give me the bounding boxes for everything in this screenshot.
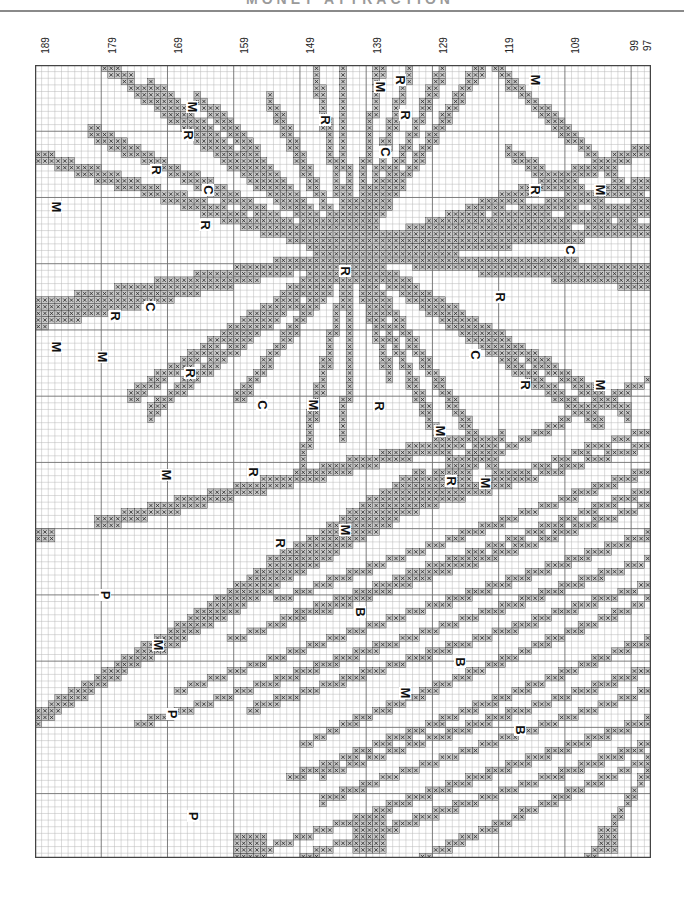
column-number: 109 <box>570 35 581 57</box>
key-label-r: R <box>318 115 333 125</box>
stitch-rays <box>35 65 651 858</box>
key-label-m: M <box>49 342 64 353</box>
key-label-m: M <box>433 426 448 437</box>
column-number: 119 <box>504 35 515 57</box>
key-label-c: C <box>255 400 270 410</box>
key-label-c: C <box>378 147 393 157</box>
key-label-m: M <box>95 352 110 363</box>
key-label-m: M <box>338 525 353 536</box>
key-label-m: M <box>306 400 321 411</box>
cross-stitch-grid: MMMRRCRRCRMRCRMRMCRRMRCMRMCRMMRRMMRPBMBM… <box>35 65 651 858</box>
key-label-r: R <box>198 220 213 230</box>
column-number: 179 <box>107 35 118 57</box>
key-label-p: P <box>98 591 113 600</box>
key-label-p: P <box>186 812 201 821</box>
key-label-r: R <box>528 185 543 195</box>
key-label-c: C <box>201 185 216 195</box>
key-label-m: M <box>151 640 166 651</box>
key-label-p: P <box>165 710 180 719</box>
key-label-c: C <box>468 350 483 360</box>
key-label-m: M <box>528 75 543 86</box>
key-label-m: M <box>398 688 413 699</box>
key-label-r: R <box>108 311 123 321</box>
column-number: 129 <box>438 35 449 57</box>
key-label-m: M <box>593 185 608 196</box>
key-label-b: B <box>513 725 528 734</box>
key-label-r: R <box>181 130 196 140</box>
key-label-c: C <box>143 302 158 312</box>
key-label-r: R <box>273 538 288 548</box>
chart-title: MONET ATTRACTION <box>220 0 480 5</box>
key-label-r: R <box>246 467 261 477</box>
key-label-r: R <box>398 110 413 120</box>
key-label-r: R <box>393 75 408 85</box>
key-label-r: R <box>338 266 353 276</box>
column-number: 169 <box>173 35 184 57</box>
key-label-m: M <box>159 470 174 481</box>
key-label-m: M <box>593 380 608 391</box>
key-label-b: B <box>353 607 368 616</box>
column-number: 149 <box>305 35 316 57</box>
column-number: 139 <box>372 35 383 57</box>
key-label-b: B <box>453 657 468 666</box>
key-label-m: M <box>478 478 493 489</box>
key-label-r: R <box>183 368 198 378</box>
key-label-m: M <box>185 102 200 113</box>
key-label-r: R <box>444 476 459 486</box>
column-number: 159 <box>239 35 250 57</box>
header-rule <box>0 10 684 12</box>
key-label-m: M <box>49 202 64 213</box>
column-number: 97 <box>642 35 653 57</box>
key-label-m: M <box>373 82 388 93</box>
column-number: 99 <box>629 35 640 57</box>
key-label-r: R <box>518 380 533 390</box>
key-label-r: R <box>493 292 508 302</box>
key-label-r: R <box>149 165 164 175</box>
column-number: 189 <box>40 35 51 57</box>
key-label-r: R <box>372 401 387 411</box>
key-label-c: C <box>563 245 578 255</box>
